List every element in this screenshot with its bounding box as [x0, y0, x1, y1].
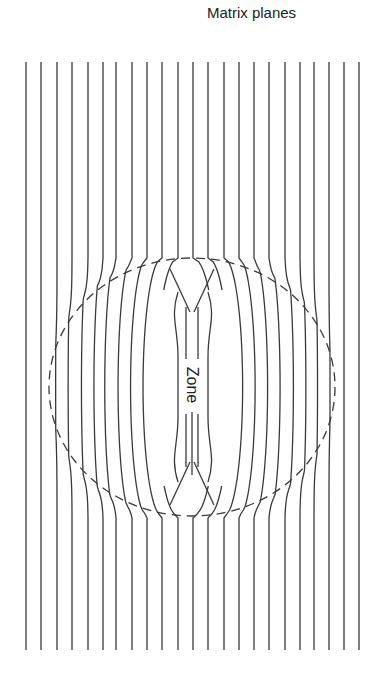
zone-inner-line [170, 269, 190, 312]
matrix-plane-line [239, 62, 255, 650]
matrix-planes-diagram [0, 0, 383, 678]
matrix-plane-line [193, 486, 208, 650]
matrix-plane-line [208, 62, 222, 290]
matrix-plane-line [208, 486, 222, 650]
matrix-plane-line [131, 62, 147, 650]
matrix-plane-line [56, 62, 57, 650]
matrix-plane-line [193, 62, 209, 290]
matrix-plane-line [314, 62, 318, 650]
matrix-plane-line [164, 62, 178, 290]
matrix-plane-line [285, 62, 293, 650]
matrix-plane-line [143, 62, 162, 650]
zone-label: Zone [183, 367, 201, 403]
matrix-plane-line [94, 62, 103, 650]
matrix-plane-line [300, 62, 306, 650]
zone-inner-line [174, 292, 178, 482]
zone-inner-line [170, 462, 190, 505]
matrix-plane-line [105, 62, 116, 650]
matrix-plane-line [329, 62, 330, 650]
matrix-plane-line [254, 62, 268, 650]
matrix-plane-line [68, 62, 72, 650]
matrix-plane-line [118, 62, 132, 650]
matrix-plane-line [164, 486, 178, 650]
matrix-plane-line [224, 62, 243, 650]
zone-inner-line [208, 292, 212, 482]
matrix-plane-lines [26, 62, 359, 650]
matrix-plane-line [81, 62, 88, 650]
matrix-plane-line [269, 62, 280, 650]
